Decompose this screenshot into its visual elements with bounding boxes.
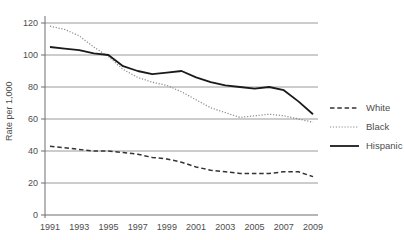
series-line-black [50, 26, 313, 122]
svg-text:100: 100 [23, 50, 38, 60]
svg-text:2005: 2005 [245, 222, 265, 232]
svg-text:40: 40 [28, 146, 38, 156]
svg-text:2007: 2007 [274, 222, 294, 232]
series-line-hispanic [50, 47, 313, 114]
y-axis-title: Rate per 1,000 [4, 81, 14, 141]
svg-text:1999: 1999 [157, 222, 177, 232]
svg-text:1995: 1995 [98, 222, 118, 232]
svg-text:120: 120 [23, 18, 38, 28]
svg-text:1997: 1997 [128, 222, 148, 232]
legend-label-black: Black [366, 121, 389, 132]
legend-line-sample-black [330, 123, 359, 131]
svg-text:80: 80 [28, 82, 38, 92]
svg-text:20: 20 [28, 178, 38, 188]
legend-item-black: Black [330, 117, 402, 136]
legend-label-white: White [366, 102, 390, 113]
legend-item-hispanic: Hispanic [330, 136, 402, 155]
svg-text:2003: 2003 [215, 222, 235, 232]
line-chart-figure: 0204060801001201991199319951997199920012… [0, 0, 404, 240]
legend-line-sample-white [330, 104, 359, 112]
svg-text:0: 0 [33, 210, 38, 220]
chart-legend: White Black Hispanic [330, 98, 402, 155]
legend-line-sample-hispanic [330, 142, 359, 150]
svg-text:1993: 1993 [69, 222, 89, 232]
svg-text:2001: 2001 [186, 222, 206, 232]
legend-label-hispanic: Hispanic [366, 140, 402, 151]
svg-text:2009: 2009 [303, 222, 323, 232]
legend-item-white: White [330, 98, 402, 117]
svg-text:1991: 1991 [40, 222, 60, 232]
svg-text:60: 60 [28, 114, 38, 124]
